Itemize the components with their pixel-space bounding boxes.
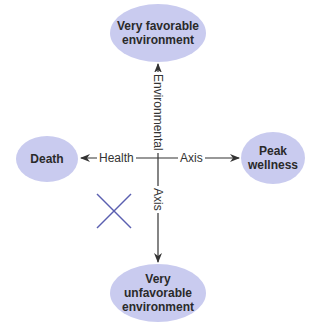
node-peak-wellness: Peakwellness — [241, 132, 305, 184]
node-top-line2: environment — [113, 33, 203, 47]
health-axis-suffix-label: Axis — [178, 151, 205, 165]
node-right-line1: Peak — [228, 144, 315, 158]
node-death-label: Death — [16, 152, 78, 166]
x-marker-icon — [97, 194, 131, 228]
node-bottom-line2: environment — [113, 300, 203, 314]
node-right-line2: wellness — [228, 158, 315, 172]
node-very-unfavorable-environment: Very unfavorableenvironment — [110, 264, 206, 322]
environmental-axis-label: Environmental — [151, 72, 165, 153]
health-axis-label: Health — [97, 151, 136, 165]
node-top-line1: Very favorable — [113, 19, 203, 33]
node-death: Death — [16, 136, 78, 182]
node-very-favorable-environment: Very favorableenvironment — [110, 4, 206, 62]
environmental-axis-suffix-label: Axis — [151, 186, 165, 213]
node-bottom-line1: Very unfavorable — [113, 272, 203, 300]
